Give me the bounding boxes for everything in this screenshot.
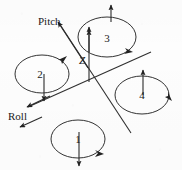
roll-axis-label: Roll <box>8 110 27 122</box>
quadcopter-diagram: 3 2 4 1 Pitch <box>0 0 182 170</box>
rotor-3-spin-arrowhead <box>124 48 133 54</box>
rotor-4-label: 4 <box>139 89 145 101</box>
diagram-canvas: 3 2 4 1 Pitch <box>0 0 182 170</box>
rotor-3-label: 3 <box>104 32 110 44</box>
pitch-axis-label: Pitch <box>38 15 61 27</box>
rotor-3-group: 3 <box>78 5 136 57</box>
rotor-1-group: 1 <box>51 120 105 166</box>
rotor-2-group: 2 <box>15 55 69 101</box>
rotor-1-label: 1 <box>75 133 81 145</box>
rotor-2-label: 2 <box>37 68 43 80</box>
z-axis-label: Z <box>79 54 86 66</box>
rotor-2-spin-arrowhead <box>58 56 67 64</box>
roll-axis-arrow-upper <box>27 96 50 107</box>
rotor-4-group: 4 <box>115 70 172 114</box>
